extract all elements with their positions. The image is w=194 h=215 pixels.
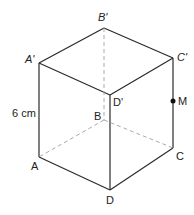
- label-c-prime: C': [177, 51, 188, 63]
- edge-b-c: [104, 120, 173, 148]
- label-m: M: [178, 95, 187, 107]
- edge-d-c: [110, 148, 173, 190]
- edge-a-d: [39, 157, 110, 190]
- label-b-prime: B': [98, 11, 108, 23]
- hidden-edges: [39, 28, 173, 157]
- label-c: C: [176, 150, 184, 162]
- label-dimension: 6 cm: [12, 107, 36, 119]
- point-m-marker: [171, 99, 176, 104]
- edge-d-prime-c-prime: [110, 58, 173, 95]
- edge-b-a: [39, 120, 104, 157]
- visible-edges: [39, 28, 173, 190]
- edge-b-prime-c-prime: [104, 28, 173, 58]
- label-d-prime: D': [113, 96, 123, 108]
- label-b: B: [94, 110, 101, 122]
- edge-a-prime-b-prime: [39, 28, 104, 63]
- cube-diagram: B' A' C' D' M 6 cm B A C D: [0, 0, 194, 215]
- label-a: A: [31, 160, 39, 172]
- label-d: D: [106, 194, 114, 206]
- edge-a-prime-d-prime: [39, 63, 110, 95]
- label-a-prime: A': [24, 53, 35, 65]
